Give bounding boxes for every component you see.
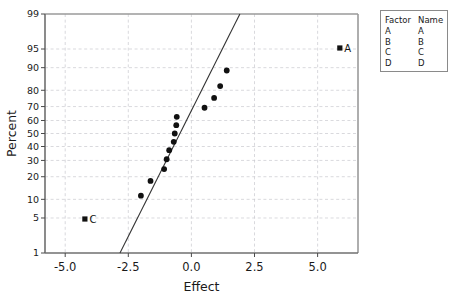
series-not-significant (138, 68, 230, 199)
point-label-C: C (89, 214, 96, 225)
data-point-circle (202, 105, 208, 111)
legend-cell-name: D (418, 58, 450, 69)
y-tick-label: 80 (27, 85, 39, 96)
x-tick-label: 0.0 (182, 260, 200, 274)
x-axis-title: Effect (184, 279, 220, 294)
data-point-circle (164, 156, 170, 162)
x-tick-label: -5.0 (54, 260, 76, 274)
y-axis-title: Percent (4, 110, 19, 157)
y-tick-label: 40 (27, 141, 39, 152)
y-axis: 151020304050607080909599 (27, 8, 45, 258)
legend-body: AABBCCDD (385, 26, 450, 68)
y-tick-label: 50 (27, 128, 39, 139)
y-tick-label: 99 (27, 8, 39, 19)
legend-header-name: Name (418, 15, 450, 26)
data-point-circle (217, 83, 223, 89)
data-point-circle (211, 95, 217, 101)
y-tick-label: 95 (27, 43, 39, 54)
legend-row: AA (385, 26, 450, 37)
reference-line (120, 14, 240, 253)
legend-cell-factor: D (385, 58, 418, 69)
y-tick-label: 10 (27, 194, 39, 205)
legend-table: Factor Name AABBCCDD (385, 15, 450, 68)
y-tick-label: 60 (27, 115, 39, 126)
data-point-circle (173, 122, 179, 128)
y-tick-label: 20 (27, 171, 39, 182)
data-point-circle (148, 178, 154, 184)
legend-cell-factor: A (385, 26, 418, 37)
y-tick-label: 90 (27, 62, 39, 73)
data-point-circle (161, 166, 167, 172)
x-axis: -5.0-2.50.02.55.0 (54, 253, 327, 274)
legend-row: BB (385, 37, 450, 48)
x-tick-label: -2.5 (117, 260, 139, 274)
factor-legend: Factor Name AABBCCDD (380, 10, 448, 72)
x-tick-label: 2.5 (245, 260, 263, 274)
y-tick-label: 5 (33, 212, 39, 223)
data-point-circle (166, 147, 172, 153)
data-point-circle (138, 193, 144, 199)
legend-cell-name: B (418, 37, 450, 48)
y-tick-label: 1 (33, 247, 39, 258)
data-point-circle (171, 139, 177, 145)
y-tick-label: 70 (27, 101, 39, 112)
legend-row: DD (385, 58, 450, 69)
point-label-A: A (344, 43, 351, 54)
data-point-square (82, 216, 87, 221)
legend-cell-name: A (418, 26, 450, 37)
data-point-circle (172, 131, 178, 137)
data-point-circle (174, 114, 180, 120)
legend-header-row: Factor Name (385, 15, 450, 26)
legend-cell-factor: C (385, 47, 418, 58)
x-tick-label: 5.0 (308, 260, 326, 274)
y-tick-label: 30 (27, 155, 39, 166)
data-point-circle (224, 68, 230, 74)
normal-probability-plot: 151020304050607080909599-5.0-2.50.02.55.… (0, 0, 457, 297)
legend-cell-name: C (418, 47, 450, 58)
legend-header-factor: Factor (385, 15, 418, 26)
legend-row: CC (385, 47, 450, 58)
data-point-square (337, 45, 342, 50)
legend-cell-factor: B (385, 37, 418, 48)
